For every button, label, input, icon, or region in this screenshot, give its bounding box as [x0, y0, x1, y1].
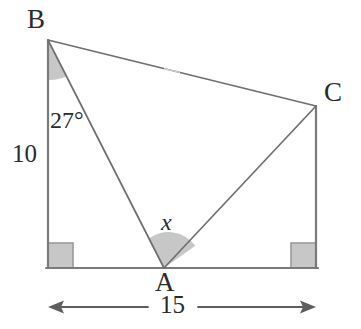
angle-measure-label-b: 27° — [50, 108, 84, 132]
vertex-label-c: C — [324, 79, 342, 106]
side-length-label-left: 10 — [12, 141, 37, 166]
segment-bc-highlight-break — [164, 69, 180, 73]
unknown-angle-label: x — [161, 210, 172, 234]
side-length-label-base: 15 — [160, 292, 185, 317]
right-angle-square-e — [291, 243, 316, 268]
segment-ba — [48, 40, 164, 268]
right-angle-square-d — [48, 243, 73, 268]
segment-bc — [48, 40, 316, 106]
geometry-figure: B C A 27° 10 15 x — [0, 0, 361, 329]
vertex-label-b: B — [27, 6, 45, 33]
geometry-canvas — [0, 0, 361, 329]
